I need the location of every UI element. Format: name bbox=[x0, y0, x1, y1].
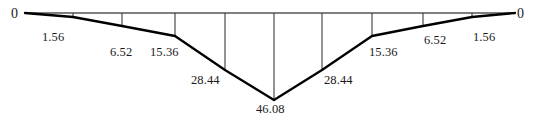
label-value-4: 28.44 bbox=[191, 74, 220, 87]
moment-curve bbox=[25, 13, 515, 100]
ordinate-lines bbox=[73, 13, 472, 101]
label-value-6: 28.44 bbox=[324, 74, 353, 87]
label-right-end-zero: 0 bbox=[517, 7, 524, 21]
label-value-2: 6.52 bbox=[110, 46, 132, 59]
label-value-5-max: 46.08 bbox=[256, 103, 285, 116]
label-value-9: 1.56 bbox=[473, 31, 495, 44]
label-value-3: 15.36 bbox=[150, 46, 179, 59]
bending-moment-diagram: 0 0 1.56 6.52 15.36 28.44 46.08 28.44 15… bbox=[0, 0, 536, 128]
label-value-7: 15.36 bbox=[369, 46, 398, 59]
label-value-8: 6.52 bbox=[424, 34, 446, 47]
label-value-1: 1.56 bbox=[42, 31, 64, 44]
label-left-end-zero: 0 bbox=[11, 7, 18, 21]
